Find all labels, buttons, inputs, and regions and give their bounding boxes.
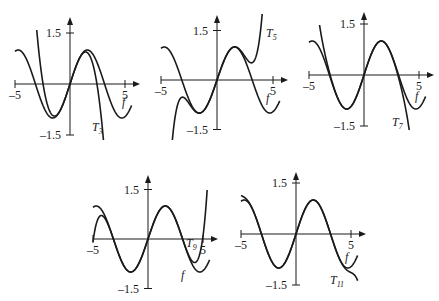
y-tick-label-max: 1.5 xyxy=(46,26,61,40)
panel-4: –551.5–1.5T9f xyxy=(86,144,218,296)
y-axis-arrow-icon xyxy=(361,12,367,20)
y-axis-arrow-icon xyxy=(145,175,151,183)
series-t9-line xyxy=(93,144,210,272)
curves xyxy=(241,195,358,280)
y-axis-arrow-icon xyxy=(214,15,220,23)
x-tick-label-max: 5 xyxy=(270,84,276,98)
y-tick-label-min: –1.5 xyxy=(186,123,208,137)
y-axis-arrow-icon xyxy=(293,172,299,180)
x-axis-arrow-icon xyxy=(427,72,434,78)
curves xyxy=(309,0,426,211)
series-label-subscript: 3 xyxy=(98,127,103,136)
series-label-subscript: 11 xyxy=(337,280,344,289)
x-axis-arrow-icon xyxy=(133,81,140,87)
y-tick-label-min: –1.5 xyxy=(333,119,355,133)
series-t7-line xyxy=(309,0,426,211)
y-tick-label-max: 1.5 xyxy=(124,183,139,197)
series-t11-line xyxy=(241,195,358,280)
x-tick-label-min: –5 xyxy=(86,243,99,257)
y-tick-label-min: –1.5 xyxy=(265,278,287,292)
x-tick-label-max: 5 xyxy=(348,238,354,252)
panel-5: –551.5–1.5T11f xyxy=(234,172,366,292)
series-label-t11: T11 xyxy=(330,273,344,289)
x-tick-label-min: –5 xyxy=(8,88,21,102)
x-tick-label-min: –5 xyxy=(154,84,167,98)
panel-2: –551.5–1.5T5f xyxy=(154,0,288,212)
series-label-t9: T9 xyxy=(186,236,197,252)
y-tick-label-min: –1.5 xyxy=(39,128,61,142)
panel-1: –551.5–1.5T3f xyxy=(8,0,140,220)
series-label-subscript: 7 xyxy=(399,122,404,131)
series-label-f: f xyxy=(345,250,350,264)
series-label-f: f xyxy=(181,268,186,282)
y-axis-arrow-icon xyxy=(67,17,73,25)
x-axis-arrow-icon xyxy=(359,231,366,237)
series-label-t5: T5 xyxy=(266,26,277,42)
x-axis-arrow-icon xyxy=(281,77,288,83)
x-axis-arrow-icon xyxy=(211,236,218,242)
panel-3: –551.5–1.5T7f xyxy=(302,0,434,211)
y-tick-label-max: 1.5 xyxy=(272,176,287,190)
x-tick-label-min: –5 xyxy=(234,238,247,252)
y-tick-label-max: 1.5 xyxy=(193,24,208,38)
curves xyxy=(93,144,210,272)
curves xyxy=(161,0,280,212)
series-label-subscript: 5 xyxy=(273,33,277,42)
y-tick-label-max: 1.5 xyxy=(340,17,355,31)
series-label-t7: T7 xyxy=(392,115,404,131)
y-tick-label-min: –1.5 xyxy=(117,282,139,296)
taylor-polynomial-figure: –551.5–1.5T3f–551.5–1.5T5f–551.5–1.5T7f–… xyxy=(0,0,439,301)
series-label-subscript: 9 xyxy=(193,243,197,252)
x-tick-label-min: –5 xyxy=(302,79,315,93)
